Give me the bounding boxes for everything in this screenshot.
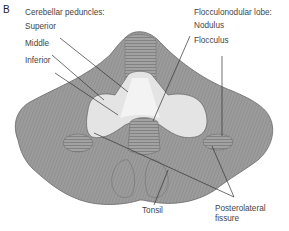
cerebellum-illustration [0,0,289,231]
label-nodulus: Nodulus [194,22,224,30]
label-posterolateral: Posterolateral [215,205,266,213]
label-middle: Middle [25,40,49,48]
label-peduncles-heading: Cerebellar peduncles: [25,9,105,17]
label-flocculonodular-heading: Flocculonodular lobe: [194,9,272,17]
flocculus-left [63,134,93,152]
label-flocculus: Flocculus [194,37,229,45]
nodulus [128,118,160,155]
flocculus-right [203,134,233,150]
label-tonsil: Tonsil [142,207,163,215]
label-inferior: Inferior [25,57,50,65]
label-fissure: fissure [215,215,239,223]
label-superior: Superior [25,23,56,31]
